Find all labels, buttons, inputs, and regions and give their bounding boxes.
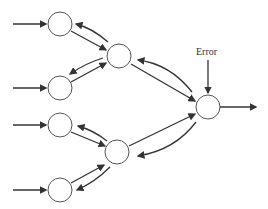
forward-edge — [71, 165, 104, 183]
backprop-edge — [70, 58, 103, 74]
forward-edge — [71, 63, 106, 82]
backprop-edge — [78, 126, 107, 141]
forward-edge — [71, 132, 105, 146]
input-node-1 — [48, 12, 72, 36]
input-node-2 — [48, 76, 72, 100]
input-node-4 — [48, 178, 72, 202]
forward-edge — [71, 31, 106, 50]
output-node — [196, 95, 220, 119]
error-label: Error — [196, 46, 218, 57]
backprop-edge — [138, 60, 192, 92]
hidden-node-1 — [107, 44, 131, 68]
input-node-3 — [48, 113, 72, 137]
forward-edge — [129, 114, 195, 146]
forward-edge — [131, 64, 195, 101]
network-diagram: Error — [0, 0, 268, 209]
hidden-node-2 — [105, 140, 129, 164]
backprop-edge — [76, 24, 108, 42]
